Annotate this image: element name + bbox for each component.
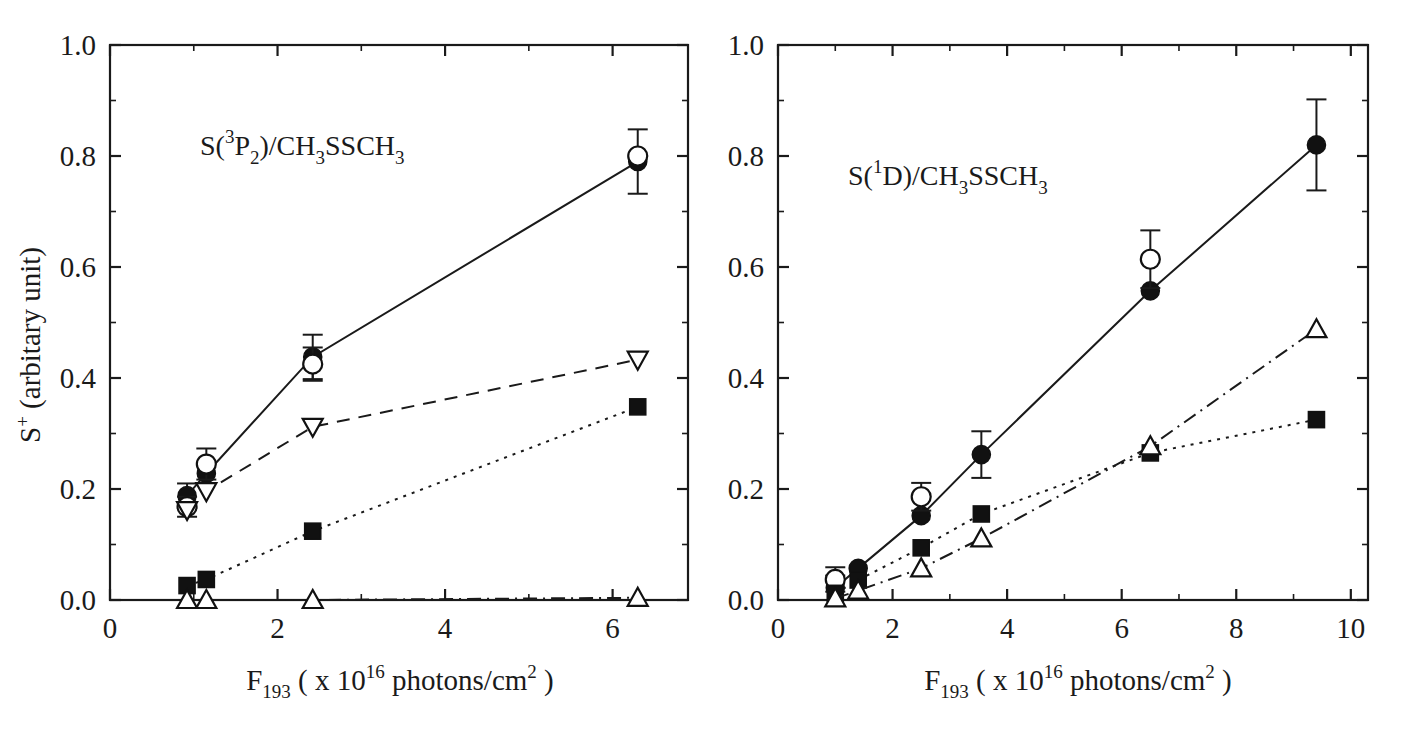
annot-s: S( [200,130,225,161]
x-axis-title-rest-a: ( x 10 [291,664,366,697]
chart-svg-left: 02460.00.20.40.60.81.0 S+ (arbitary unit… [0,0,708,735]
y-tick-label: 0.6 [60,251,96,283]
x-tick-label: 0 [771,612,786,644]
y-axis-title-sup: + [12,416,33,427]
y-tick-label: 1.0 [728,29,764,61]
x-axis-title-main: F [246,664,262,696]
x-tick-label: 4 [438,612,453,644]
data-point-filled-square [913,540,929,556]
annot-sup: 1 [873,156,883,177]
y-tick-label: 0.8 [60,140,96,172]
y-tick-label: 0.0 [60,584,96,616]
x-axis-title-sup: 16 [366,661,385,682]
x-tick-label: 6 [1114,612,1129,644]
x-axis-title-rest-c: ) [1215,664,1232,697]
annot-sup: 3 [225,126,235,147]
y-tick-label: 0.2 [728,473,764,505]
annot-mid: )/CH [259,130,315,161]
svg-text:S(3P2)/CH3SSCH3: S(3P2)/CH3SSCH3 [200,126,405,168]
axis-ticks-right [778,45,1368,600]
data-point-filled-square [1308,412,1324,428]
x-axis-title-rest-c: ) [537,664,554,697]
data-point-open-down-triangle [196,483,216,501]
chart-svg-right: 02468100.00.20.40.60.81.0 F193 ( x 1016 … [708,0,1416,735]
data-point-open-circle [197,455,216,474]
x-axis-title-rest-b: photons/cm [385,664,528,696]
y-tick-label: 0.4 [60,362,97,394]
x-tick-label: 8 [1229,612,1244,644]
data-point-filled-circle [972,446,990,464]
series-line-filled-circle [835,145,1316,588]
annot-p: P [234,130,250,161]
chart-panel-left: 02460.00.20.40.60.81.0 S+ (arbitary unit… [0,0,708,735]
axis-tick-labels-right: 02468100.00.20.40.60.81.0 [728,29,1366,644]
annot-ss: SSCH [968,160,1038,191]
data-point-open-up-triangle [628,588,648,606]
x-tick-label: 2 [885,612,900,644]
annot-s: S( [848,160,873,191]
annot-p: D [882,160,902,191]
data-point-open-circle [1141,250,1160,269]
y-tick-label: 0.0 [728,584,764,616]
annot-ss: SSCH [325,130,395,161]
y-axis-title: S+ (arbitary unit) [12,247,47,443]
y-tick-label: 1.0 [60,29,96,61]
x-axis-title-main: F [924,664,940,696]
data-point-open-circle [628,147,647,166]
x-axis-title-sub: 193 [262,681,291,702]
x-tick-label: 10 [1336,612,1365,644]
x-axis-title-sup: 16 [1044,661,1063,682]
data-point-open-up-triangle [911,558,931,576]
data-point-open-up-triangle [971,528,991,546]
y-tick-label: 0.6 [728,251,764,283]
svg-text:S(1D)/CH3SSCH3: S(1D)/CH3SSCH3 [848,156,1048,198]
data-point-open-circle [303,355,322,374]
annot-sub3: 3 [1038,177,1048,198]
x-tick-label: 4 [1000,612,1015,644]
annot-sub2: 3 [959,177,969,198]
data-point-open-down-triangle [628,352,648,370]
data-point-open-circle [912,487,931,506]
annot-sub3: 3 [395,147,405,168]
series-line-open-down-triangle [187,360,638,510]
data-point-filled-square [973,506,989,522]
series-line-filled-circle [187,162,638,496]
x-tick-label: 0 [103,612,118,644]
x-tick-label: 6 [605,612,620,644]
axis-tick-labels-left: 02460.00.20.40.60.81.0 [60,29,620,644]
data-point-open-down-triangle [303,419,323,437]
annot-sub2: 3 [315,147,325,168]
data-series-group-left [177,129,648,608]
x-axis-title-rest-a: ( x 10 [969,664,1044,697]
y-axis-title-main: S [14,427,46,443]
series-line-open-up-triangle [835,329,1316,598]
x-tick-label: 2 [270,612,285,644]
data-point-filled-square [198,571,214,587]
x-axis-title-sup2: 2 [527,661,537,682]
y-tick-label: 0.4 [728,362,765,394]
x-axis-title-sup2: 2 [1205,661,1215,682]
panel-annotation-right: S(1D)/CH3SSCH3 [848,156,1048,198]
x-axis-title-sub: 193 [940,681,969,702]
y-axis-title-rest: (arbitary unit) [14,247,47,416]
x-axis-title-rest-b: photons/cm [1063,664,1206,696]
chart-panel-right: 02468100.00.20.40.60.81.0 F193 ( x 1016 … [708,0,1416,735]
data-point-open-up-triangle [1306,319,1326,337]
series-line-filled-square [187,407,638,586]
panel-annotation-left: S(3P2)/CH3SSCH3 [200,126,405,168]
data-point-filled-circle [1307,136,1325,154]
y-tick-label: 0.2 [60,473,96,505]
svg-text:F193 ( x 1016 photons/cm2 ): F193 ( x 1016 photons/cm2 ) [246,661,554,702]
svg-text:F193 ( x 1016 photons/cm2 ): F193 ( x 1016 photons/cm2 ) [924,661,1232,702]
annot-sub1: 2 [250,147,260,168]
x-axis-title: F193 ( x 1016 photons/cm2 ) [924,661,1232,702]
y-tick-label: 0.8 [728,140,764,172]
figure-root: 02460.00.20.40.60.81.0 S+ (arbitary unit… [0,0,1416,735]
plot-frame-right [778,45,1368,600]
data-point-filled-square [305,523,321,539]
svg-text:S+ (arbitary unit): S+ (arbitary unit) [12,247,47,443]
x-axis-title: F193 ( x 1016 photons/cm2 ) [246,661,554,702]
data-point-filled-square [630,399,646,415]
series-line-filled-square [835,420,1316,594]
annot-mid: )/CH [903,160,959,191]
